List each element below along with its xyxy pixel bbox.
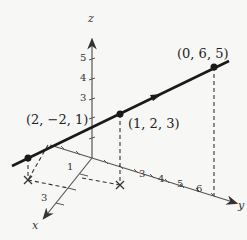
label-point-2: (1, 2, 3)	[128, 116, 180, 131]
z-tick-3: 3	[80, 92, 86, 103]
y-tick-5: 5	[177, 178, 183, 189]
3d-diagram: (2, −2, 1) (1, 2, 3) (0, 6, 5) z y x 5 4…	[0, 0, 247, 240]
y-tick-3: 3	[139, 168, 145, 179]
z-tick-5: 5	[80, 52, 86, 63]
x-tick-1: 1	[67, 161, 73, 172]
direction-arrow-icon	[150, 94, 162, 101]
point-0-6-5	[211, 64, 218, 71]
label-point-1: (2, −2, 1)	[26, 112, 88, 127]
point-2-neg2-1	[25, 155, 32, 162]
y-tick-4: 4	[158, 173, 164, 184]
z-axis-label: z	[87, 12, 94, 25]
neg-y-axis	[50, 145, 92, 158]
y-tick-6: 6	[196, 183, 202, 194]
x-tick-3: 3	[41, 192, 47, 203]
y-axis-label: y	[237, 199, 245, 212]
z-tick-4: 4	[80, 72, 86, 83]
point-1-2-3	[117, 111, 124, 118]
x-axis-label: x	[32, 219, 39, 232]
label-point-3: (0, 6, 5)	[177, 46, 229, 61]
